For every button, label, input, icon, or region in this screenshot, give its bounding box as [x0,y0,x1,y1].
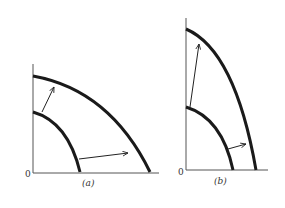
outer-frontier-b [186,29,256,170]
caption-a: (a) [82,178,95,188]
origin-label-a: 0 [25,169,31,179]
inner-frontier-a [33,112,80,172]
diagram-canvas: 0 (a) 0 (b) [0,0,285,208]
shift-arrow-right-a [79,153,128,159]
shift-arrow-up-a [42,87,54,112]
panel-b: 0 (b) [178,18,268,186]
panel-a: 0 (a) [25,64,159,188]
shift-arrow-up-b [190,44,199,107]
origin-label-b: 0 [178,167,184,177]
caption-b: (b) [214,176,227,186]
shift-arrow-right-b [228,144,246,149]
inner-frontier-b [186,107,233,170]
